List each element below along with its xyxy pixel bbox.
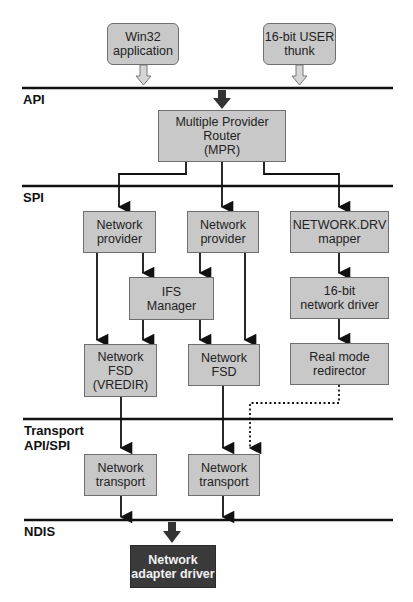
box-network-adapter-driver: Network adapter driver [130, 545, 216, 588]
box-network-transport-1: Network transport [84, 454, 157, 496]
layer-label-api: API [23, 92, 45, 107]
layer-label-ndis: NDIS [24, 524, 55, 539]
thick-arrow-ndis [163, 522, 181, 543]
box-network-provider-1: Network provider [83, 211, 156, 253]
box-16bit-user-thunk: 16-bit USER thunk [263, 23, 336, 65]
layer-label-spi: SPI [23, 190, 44, 205]
box-mpr: Multiple Provider Router (MPR) [158, 110, 286, 162]
hollow-arrow-thunk [292, 65, 307, 85]
box-ifs-manager: IFS Manager [129, 277, 214, 320]
box-real-mode-redirector: Real mode redirector [290, 343, 389, 385]
hollow-arrow-win32 [136, 65, 151, 85]
box-network-fsd: Network FSD [188, 344, 260, 386]
box-network-drv-mapper: NETWORK.DRV mapper [290, 211, 389, 253]
box-16bit-network-driver: 16-bit network driver [290, 277, 389, 319]
box-network-fsd-vredir: Network FSD (VREDIR) [84, 344, 157, 397]
thick-arrow-api [213, 90, 231, 109]
dotted-path [250, 385, 339, 448]
box-network-provider-2: Network provider [187, 211, 259, 253]
layer-label-transport: Transport API/SPI [24, 423, 84, 453]
box-win32-application: Win32 application [107, 23, 179, 65]
box-network-transport-2: Network transport [188, 454, 260, 496]
